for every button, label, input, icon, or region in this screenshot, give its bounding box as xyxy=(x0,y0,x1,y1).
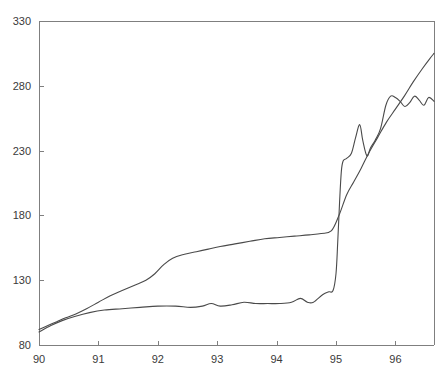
x-tick-label: 91 xyxy=(92,353,104,365)
x-tick-label: 94 xyxy=(270,353,282,365)
y-tick-label: 80 xyxy=(19,339,31,351)
x-tick-label: 95 xyxy=(330,353,342,365)
x-tick-label: 90 xyxy=(33,353,45,365)
y-tick-label: 130 xyxy=(13,274,31,286)
y-tick-label: 180 xyxy=(13,209,31,221)
tick-marks xyxy=(39,22,396,346)
line-chart: 80130180230280330 90919293949596 xyxy=(0,0,448,377)
plot-area: 80130180230280330 90919293949596 xyxy=(0,0,448,377)
y-tick-label: 230 xyxy=(13,145,31,157)
x-axis-tick-labels: 90919293949596 xyxy=(33,353,402,365)
y-axis-tick-labels: 80130180230280330 xyxy=(13,15,31,351)
y-tick-label: 330 xyxy=(13,15,31,27)
x-tick-label: 93 xyxy=(211,353,223,365)
axes xyxy=(39,21,434,345)
y-tick-label: 280 xyxy=(13,80,31,92)
data-series xyxy=(39,53,434,332)
series-line-series-1 xyxy=(39,53,434,329)
x-tick-label: 92 xyxy=(152,353,164,365)
series-line-series-2 xyxy=(39,96,434,332)
x-tick-label: 96 xyxy=(389,353,401,365)
